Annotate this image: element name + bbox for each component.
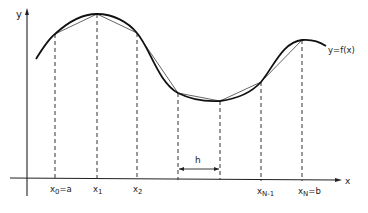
y-axis-label: y bbox=[16, 9, 22, 20]
curve-label: y=f(x) bbox=[328, 45, 355, 55]
ordinates bbox=[55, 14, 302, 181]
svg-text:xN=b: xN=b bbox=[298, 186, 321, 198]
x-axis-arrow-icon bbox=[335, 178, 342, 182]
step-label: h bbox=[195, 155, 201, 165]
y-axis-arrow-icon bbox=[25, 8, 29, 15]
trapezoid-rule-diagram: y x y=f(x) h x0=a x1 x2 xN-1 xN=b bbox=[0, 0, 368, 213]
function-curve bbox=[36, 14, 326, 101]
svg-text:x2: x2 bbox=[133, 184, 143, 196]
svg-text:xN-1: xN-1 bbox=[257, 186, 274, 198]
x-axis-label: x bbox=[345, 176, 351, 186]
tick-labels: x0=a x1 x2 xN-1 xN=b bbox=[50, 184, 321, 198]
svg-text:x0=a: x0=a bbox=[50, 184, 72, 196]
trapezoid-chords bbox=[55, 14, 302, 101]
step-size-h bbox=[179, 167, 219, 171]
x-axis bbox=[10, 178, 338, 180]
svg-text:x1: x1 bbox=[93, 184, 103, 196]
axes bbox=[10, 8, 342, 196]
